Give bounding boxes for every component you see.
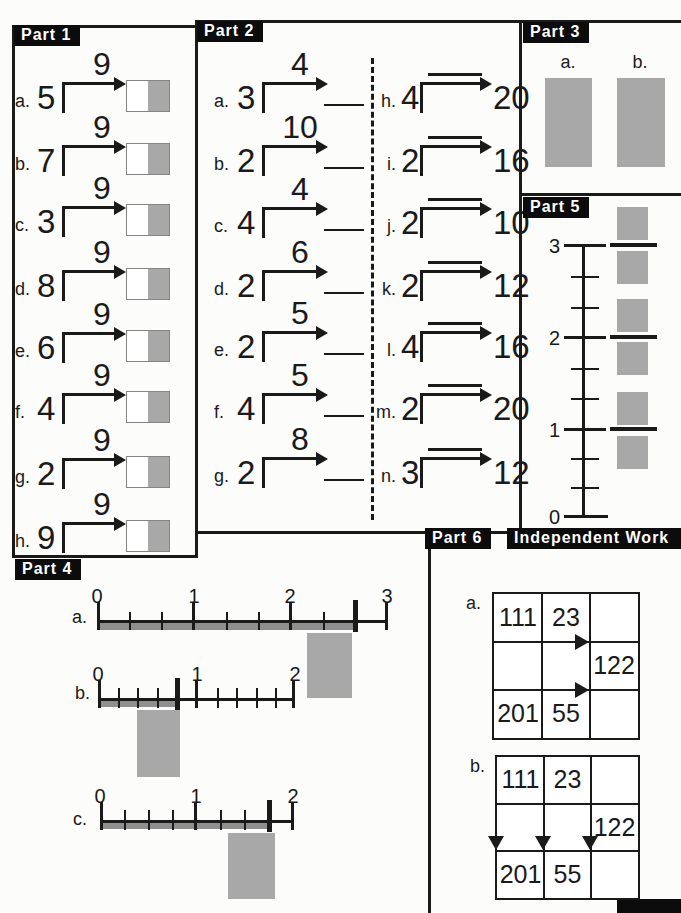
covered-answer-box (228, 833, 275, 899)
major-tick (195, 680, 198, 708)
minor-tick (172, 810, 174, 830)
arrowhead-icon (480, 202, 492, 216)
grid-cell: 201 (494, 701, 542, 726)
part6-header: Part 6 (425, 528, 491, 549)
item-letter: n. (370, 467, 396, 485)
minor-tick (161, 612, 163, 630)
l-arrow-icon (420, 457, 481, 488)
major-tick (292, 680, 295, 708)
answer-blank-line (428, 322, 482, 325)
arrowhead-icon (480, 140, 492, 154)
l-arrow-icon (420, 393, 481, 424)
l-arrow-icon (62, 522, 115, 553)
covered-answer-box (617, 436, 648, 469)
item-product: 12 (493, 456, 530, 489)
minor-tick (256, 688, 258, 708)
answer-blank-line (428, 198, 482, 201)
grid-line (497, 850, 638, 852)
number-grid-a: 111 23 122 201 55 (492, 592, 640, 740)
major-tick (289, 602, 292, 630)
answer-bar (610, 427, 657, 431)
down-arrowhead-icon (535, 836, 551, 850)
arrowhead-icon (480, 265, 492, 279)
covered-answer-box (617, 78, 665, 167)
grid-line (494, 689, 638, 691)
major-tick (564, 336, 606, 339)
minor-tick (220, 810, 222, 830)
arrowhead-icon (480, 388, 492, 402)
shaded-end-tick (175, 678, 180, 710)
answer-blank-line (428, 448, 482, 451)
major-tick (564, 244, 606, 247)
item-letter: h. (370, 92, 396, 110)
item-value: 9 (37, 521, 55, 554)
part4-header: Part 4 (15, 559, 81, 580)
page-corner-mark (617, 899, 681, 913)
grid-cell: 201 (497, 862, 544, 887)
half-shaded-answer-box (126, 520, 170, 552)
tick-label: 2 (283, 664, 307, 684)
item-letter: b. (620, 53, 660, 71)
down-arrowhead-icon (488, 836, 504, 850)
minor-tick (217, 688, 219, 708)
minor-tick (571, 276, 599, 278)
item-letter: m. (370, 403, 396, 421)
answer-bar (610, 243, 657, 247)
part2-row-right: n. 3 12 (0, 421, 681, 491)
arrow-multiplier-label: 9 (80, 488, 124, 520)
part4-number-line-a: 0 1 2 3 (97, 586, 402, 646)
answer-blank-line (428, 136, 482, 139)
minor-tick (137, 688, 139, 708)
arrowhead-icon (480, 326, 492, 340)
arrowhead-icon (114, 517, 126, 531)
minor-tick (323, 612, 325, 630)
minor-tick (571, 398, 599, 400)
covered-answer-box (617, 299, 648, 332)
major-tick (97, 602, 100, 630)
item-value: 3 (401, 456, 419, 489)
covered-answer-box (617, 342, 648, 375)
covered-answer-box (617, 207, 648, 240)
grid-cell: 111 (497, 767, 544, 792)
major-tick (192, 602, 195, 630)
grid-line (497, 803, 638, 805)
item-letter: h. (15, 532, 37, 550)
tick-label: 2 (536, 328, 560, 348)
part2-header: Part 2 (197, 21, 263, 42)
right-arrowhead-icon (575, 682, 589, 698)
shaded-end-tick (267, 800, 272, 832)
tick-label: 3 (536, 236, 560, 256)
minor-tick (258, 612, 260, 630)
item-letter: a. (548, 53, 588, 71)
shaded-end-tick (353, 600, 358, 632)
covered-answer-box (137, 710, 180, 777)
minor-tick (148, 810, 150, 830)
major-tick (100, 802, 103, 830)
axis-line (582, 246, 585, 518)
covered-answer-box (307, 633, 352, 698)
major-tick (564, 428, 606, 431)
grid-cell: 23 (544, 767, 591, 792)
covered-answer-box (617, 251, 648, 284)
tick-label: 0 (536, 507, 560, 527)
item-letter: b. (75, 684, 90, 702)
worksheet-page: Part 1 Part 2 Part 3 Part 5 Part 4 Part … (0, 0, 681, 913)
minor-tick (236, 688, 238, 708)
item-letter: c. (73, 810, 87, 828)
minor-tick (157, 688, 159, 708)
right-arrowhead-icon (575, 634, 589, 650)
part2-top-border (195, 20, 681, 23)
minor-tick (226, 612, 228, 630)
tick-label: 1 (536, 420, 560, 440)
grid-cell: 122 (590, 653, 638, 678)
item-letter: j. (370, 217, 396, 235)
independent-work-header: Independent Work (507, 528, 681, 549)
grid-line (494, 641, 638, 643)
grid-cell: 111 (494, 605, 542, 630)
answer-blank-line (428, 73, 482, 76)
covered-answer-box (617, 392, 648, 425)
number-grid-b: 111 23 122 201 55 (495, 755, 640, 900)
major-tick (564, 515, 608, 518)
grid-cell: 23 (542, 605, 590, 630)
minor-tick (571, 458, 599, 460)
